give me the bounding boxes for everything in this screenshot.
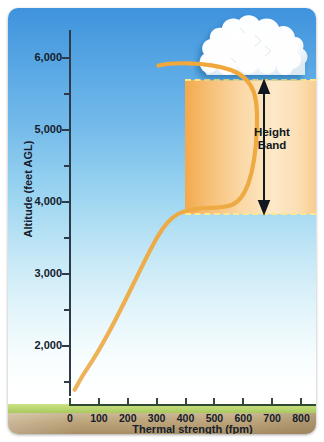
height-band-label-line1: Height xyxy=(236,126,308,139)
x-tick-0 xyxy=(69,398,71,405)
y-label-3000: 3,000 xyxy=(16,267,62,279)
thermal-strength-chart-figure: Height Band 6,000 5,000 4,000 xyxy=(0,0,324,442)
x-tick-200 xyxy=(127,398,129,405)
y-tick-5500 xyxy=(64,93,69,95)
x-tick-500 xyxy=(213,398,215,405)
plot-area: Height Band 6,000 5,000 4,000 xyxy=(8,8,316,434)
x-axis-title: Thermal strength (fpm) xyxy=(69,423,316,434)
y-tick-3000 xyxy=(62,273,69,275)
y-axis-title: Altitude (feet AGL) xyxy=(22,114,34,264)
y-tick-5000 xyxy=(62,129,69,131)
y-tick-1500 xyxy=(64,381,69,383)
y-axis-line xyxy=(69,30,71,396)
x-tick-400 xyxy=(185,398,187,405)
x-axis-line xyxy=(69,404,316,406)
x-tick-600 xyxy=(242,398,244,405)
height-band-arrow xyxy=(8,8,316,434)
y-label-2000: 2,000 xyxy=(16,339,62,351)
y-tick-3500 xyxy=(64,237,69,239)
x-tick-300 xyxy=(156,398,158,405)
height-band-label-line2: Band xyxy=(236,139,308,152)
y-tick-6000 xyxy=(62,57,69,59)
x-tick-100 xyxy=(98,398,100,405)
x-tick-700 xyxy=(271,398,273,405)
x-tick-800 xyxy=(300,398,302,405)
y-label-6000: 6,000 xyxy=(16,51,62,63)
y-tick-4000 xyxy=(62,201,69,203)
chart-card: Height Band 6,000 5,000 4,000 xyxy=(8,8,316,434)
y-tick-2000 xyxy=(62,345,69,347)
y-tick-2500 xyxy=(64,309,69,311)
y-tick-4500 xyxy=(64,165,69,167)
height-band-label: Height Band xyxy=(236,126,308,152)
